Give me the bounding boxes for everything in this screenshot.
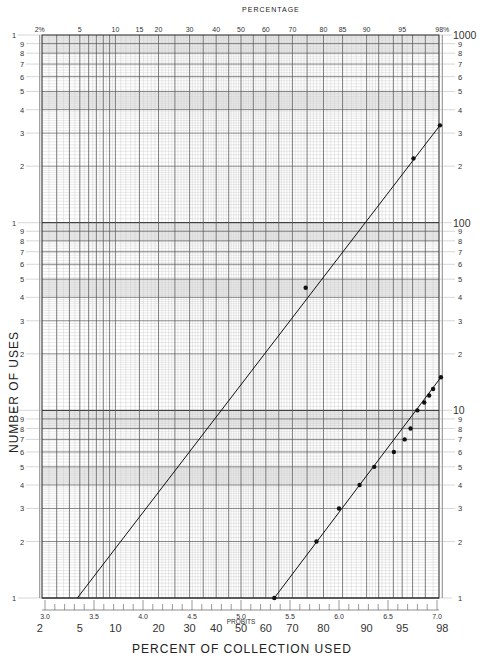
data-point <box>357 483 361 487</box>
right-tick-label: 6 <box>458 448 462 457</box>
top-tick-label: 85 <box>339 26 347 33</box>
left-tick-label: 3 <box>20 129 24 138</box>
data-point <box>438 123 442 127</box>
left-y-axis: 1987654321987654321987654321 <box>12 31 42 603</box>
right-tick-label: 4 <box>458 481 462 490</box>
data-point <box>411 156 415 160</box>
data-point <box>372 465 376 469</box>
bottom-tick-label: 5 <box>77 622 83 634</box>
plot-frame <box>42 35 439 598</box>
right-tick-label: 7 <box>458 60 462 69</box>
top-tick-label: 15 <box>136 26 144 33</box>
right-tick-label: 4 <box>458 106 462 115</box>
probit-tick-label: 4.5 <box>187 613 197 620</box>
top-tick-label: 60 <box>262 26 270 33</box>
top-tick-label: 10 <box>112 26 120 33</box>
right-tick-label: 2 <box>458 350 462 359</box>
data-point <box>314 539 318 543</box>
probit-tick-label: 5.5 <box>285 613 295 620</box>
shaded-band <box>42 35 439 53</box>
left-tick-label: 1 <box>12 594 16 603</box>
right-decade-label: 1000 <box>453 29 477 41</box>
data-point <box>392 450 396 454</box>
right-tick-label: 3 <box>458 129 462 138</box>
left-tick-label: 8 <box>20 49 24 58</box>
top-tick-label: 40 <box>212 26 220 33</box>
right-y-axis: 1000100101234567892345678923456789 <box>439 29 477 603</box>
shaded-band <box>42 279 439 297</box>
grid-minor <box>42 35 439 598</box>
right-tick-label: 4 <box>458 293 462 302</box>
left-tick-label: 9 <box>20 40 24 49</box>
top-tick-label: 5 <box>78 26 82 33</box>
right-tick-label: 7 <box>458 248 462 257</box>
right-tick-label: 3 <box>458 317 462 326</box>
top-tick-label: 2% <box>35 26 45 33</box>
left-tick-label: 7 <box>20 60 24 69</box>
top-tick-label: 90 <box>363 26 371 33</box>
probit-axis-label: PROBITS <box>227 618 256 625</box>
left-tick-label: 7 <box>20 248 24 257</box>
shaded-band <box>42 223 439 241</box>
right-tick-label: 8 <box>458 425 462 434</box>
y-axis-title: NUMBER OF USES <box>7 331 21 453</box>
right-tick-label: 8 <box>458 49 462 58</box>
probit-tick-label: 6.5 <box>383 613 393 620</box>
left-tick-label: 5 <box>20 275 24 284</box>
right-tick-label: 6 <box>458 73 462 82</box>
right-decade-label: 1 <box>458 594 462 603</box>
data-point <box>439 375 443 379</box>
left-tick-label: 4 <box>20 293 24 302</box>
left-tick-label: 4 <box>20 106 24 115</box>
data-point <box>337 506 341 510</box>
probit-tick-label: 6.0 <box>334 613 344 620</box>
data-point <box>422 400 426 404</box>
data-series <box>77 123 443 600</box>
series-lower <box>272 375 443 600</box>
top-tick-label: 98% <box>435 26 449 33</box>
left-tick-label: 3 <box>20 317 24 326</box>
data-point <box>415 408 419 412</box>
left-tick-label: 1 <box>12 219 16 228</box>
bottom-tick-label: 2 <box>37 622 43 634</box>
top-tick-label: 20 <box>155 26 163 33</box>
data-point <box>431 387 435 391</box>
left-tick-label: 6 <box>20 73 24 82</box>
left-tick-label: 2 <box>20 162 24 171</box>
right-tick-label: 8 <box>458 237 462 246</box>
shaded-band <box>42 410 439 428</box>
bottom-tick-label: 98 <box>436 622 448 634</box>
top-tick-label: 95 <box>398 26 406 33</box>
top-axis-label: PERCENTAGE <box>242 6 300 13</box>
probit-axis: 3.03.54.04.55.05.56.06.57.0 <box>40 600 442 620</box>
right-tick-label: 7 <box>458 435 462 444</box>
right-tick-label: 9 <box>458 40 462 49</box>
right-tick-label: 5 <box>458 463 462 472</box>
probit-tick-label: 3.0 <box>40 613 50 620</box>
bottom-tick-label: 40 <box>210 622 222 634</box>
right-tick-label: 5 <box>458 87 462 96</box>
shaded-band <box>42 91 439 109</box>
bottom-tick-label: 80 <box>317 622 329 634</box>
right-tick-label: 3 <box>458 504 462 513</box>
right-tick-label: 9 <box>458 415 462 424</box>
top-tick-label: 80 <box>320 26 328 33</box>
probit-tick-label: 7.0 <box>432 613 442 620</box>
bottom-tick-label: 90 <box>360 622 372 634</box>
top-tick-label: 30 <box>186 26 194 33</box>
shaded-band <box>42 467 439 485</box>
bottom-tick-label: 60 <box>260 622 272 634</box>
right-tick-label: 6 <box>458 260 462 269</box>
left-tick-label: 2 <box>20 538 24 547</box>
top-tick-label: 70 <box>288 26 296 33</box>
probit-tick-label: 3.5 <box>89 613 99 620</box>
data-point <box>427 393 431 397</box>
bottom-tick-label: 95 <box>396 622 408 634</box>
left-tick-label: 5 <box>20 463 24 472</box>
right-tick-label: 9 <box>458 227 462 236</box>
bottom-tick-label: 70 <box>286 622 298 634</box>
left-tick-label: 8 <box>20 237 24 246</box>
data-point <box>303 286 307 290</box>
data-point <box>402 437 406 441</box>
right-tick-label: 5 <box>458 275 462 284</box>
